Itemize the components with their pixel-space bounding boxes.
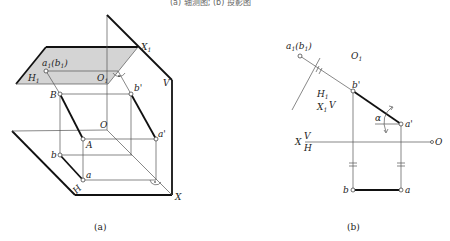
label-v-small: V bbox=[329, 100, 337, 110]
point-a bbox=[399, 188, 403, 192]
label-O: O bbox=[100, 120, 108, 130]
label-b-prime: b' bbox=[352, 80, 360, 90]
point-B bbox=[58, 92, 62, 96]
caption-a: (a) bbox=[94, 222, 106, 232]
caption-b: (b) bbox=[347, 222, 360, 232]
point-b bbox=[351, 188, 355, 192]
point-a1b1 bbox=[44, 69, 48, 73]
x-axis-line bbox=[107, 130, 172, 195]
point-b-prime bbox=[129, 92, 133, 96]
label-B: B bbox=[49, 90, 57, 100]
label-o1: O1 bbox=[351, 51, 362, 62]
label-O: O bbox=[435, 137, 443, 147]
label-x1: X1 bbox=[140, 42, 151, 53]
label-a-prime: a' bbox=[158, 129, 166, 139]
projection-diagram: (a) 轴测图; (b) 投影图 bbox=[0, 0, 450, 241]
label-A: A bbox=[85, 140, 93, 150]
projection-line-a1-b-prime bbox=[300, 56, 353, 91]
label-x1: X1 bbox=[316, 102, 327, 113]
point-a bbox=[81, 178, 85, 182]
point-a-prime bbox=[399, 122, 403, 126]
label-alpha: α bbox=[375, 113, 381, 123]
figure-a-axonometric: X1 a1(b1) H1 O1 V B b' O a' A b a H X (a… bbox=[12, 15, 182, 232]
alpha-angle-arc bbox=[384, 107, 392, 132]
line-AB bbox=[60, 94, 83, 139]
figure-b-projection: a1(b1) O1 b' H1 X1 V α a' X V H O b a (b… bbox=[286, 41, 443, 232]
label-a-prime: a' bbox=[405, 119, 413, 129]
label-X: X bbox=[294, 137, 302, 147]
label-a1b1: a1(b1) bbox=[42, 58, 68, 69]
label-b: b bbox=[343, 185, 349, 195]
line-ab bbox=[60, 155, 83, 180]
label-a1b1: a1(b1) bbox=[286, 41, 312, 52]
point-a1b1 bbox=[298, 54, 302, 58]
label-b-prime: b' bbox=[134, 83, 142, 93]
label-a: a bbox=[405, 185, 410, 195]
line-a-prime-b-prime bbox=[131, 94, 156, 139]
label-a: a bbox=[86, 170, 91, 180]
label-V: V bbox=[304, 131, 312, 141]
point-b bbox=[58, 153, 62, 157]
label-b: b bbox=[51, 150, 57, 160]
top-caption: (a) 轴测图; (b) 投影图 bbox=[170, 0, 251, 7]
label-H: H bbox=[303, 143, 312, 153]
point-A bbox=[81, 137, 85, 141]
label-v: V bbox=[163, 78, 171, 88]
label-X: X bbox=[174, 192, 182, 202]
x1-axis bbox=[292, 58, 320, 110]
h-plane-left-edge bbox=[12, 131, 75, 195]
label-h1: H1 bbox=[316, 89, 329, 100]
